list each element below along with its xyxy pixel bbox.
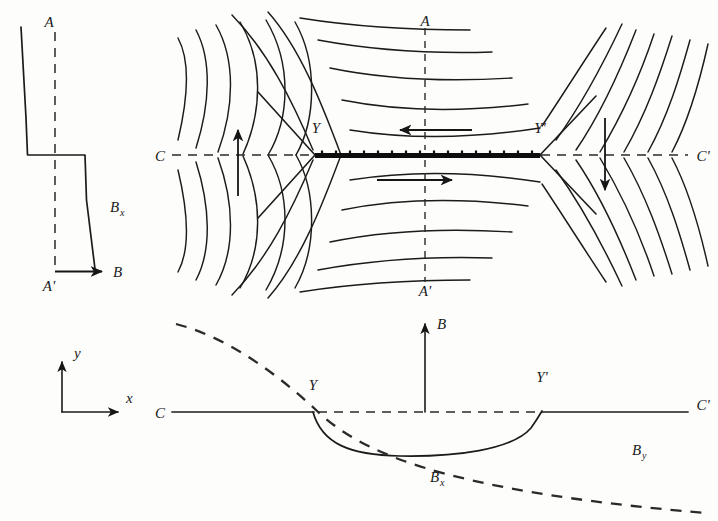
left-label-Bx-subscript: x: [119, 207, 125, 218]
reconnection-figure: A A' B B x: [0, 0, 718, 521]
fieldlines-upper-center: [300, 18, 540, 137]
center-label-Y-prime: Y': [534, 120, 546, 136]
current-sheet: [315, 151, 540, 156]
figure-canvas: A A' B B x: [0, 0, 718, 521]
bottom-label-Y: Y: [309, 377, 319, 393]
left-bx-profile-curve: [21, 27, 95, 269]
left-label-Bx: B: [110, 199, 119, 215]
bottom-label-x: x: [125, 390, 133, 406]
left-label-A-prime: A': [42, 278, 56, 294]
fieldlines-lower-right: [542, 158, 708, 286]
center-label-C: C: [155, 148, 166, 164]
center-label-Y: Y: [312, 120, 322, 136]
bottom-label-B: B: [437, 316, 446, 332]
center-label-C-prime: C': [696, 148, 710, 164]
fieldlines-lower-left: [178, 155, 341, 298]
bottom-label-C-prime: C': [696, 397, 710, 413]
bottom-label-Bx-subscript: x: [439, 477, 445, 488]
fieldlines-lower-center: [300, 173, 540, 292]
center-label-A-prime: A': [418, 283, 432, 299]
bottom-label-Bx: B: [430, 469, 439, 485]
left-label-B-axis: B: [113, 264, 122, 280]
bottom-label-C: C: [155, 405, 166, 421]
bottom-label-By-subscript: y: [641, 450, 647, 461]
bottom-label-y: y: [72, 345, 81, 361]
center-label-A: A: [419, 13, 430, 29]
fieldlines-upper-right: [542, 24, 708, 152]
bottom-label-Y-prime: Y': [536, 369, 548, 385]
left-label-A: A: [43, 14, 54, 30]
bottom-panel: y x B C C' Y Y' B x B y: [62, 316, 710, 513]
bottom-label-By: B: [632, 442, 641, 458]
left-panel: A A' B B x: [21, 14, 125, 294]
center-panel: A A' C C' Y Y': [155, 12, 710, 299]
